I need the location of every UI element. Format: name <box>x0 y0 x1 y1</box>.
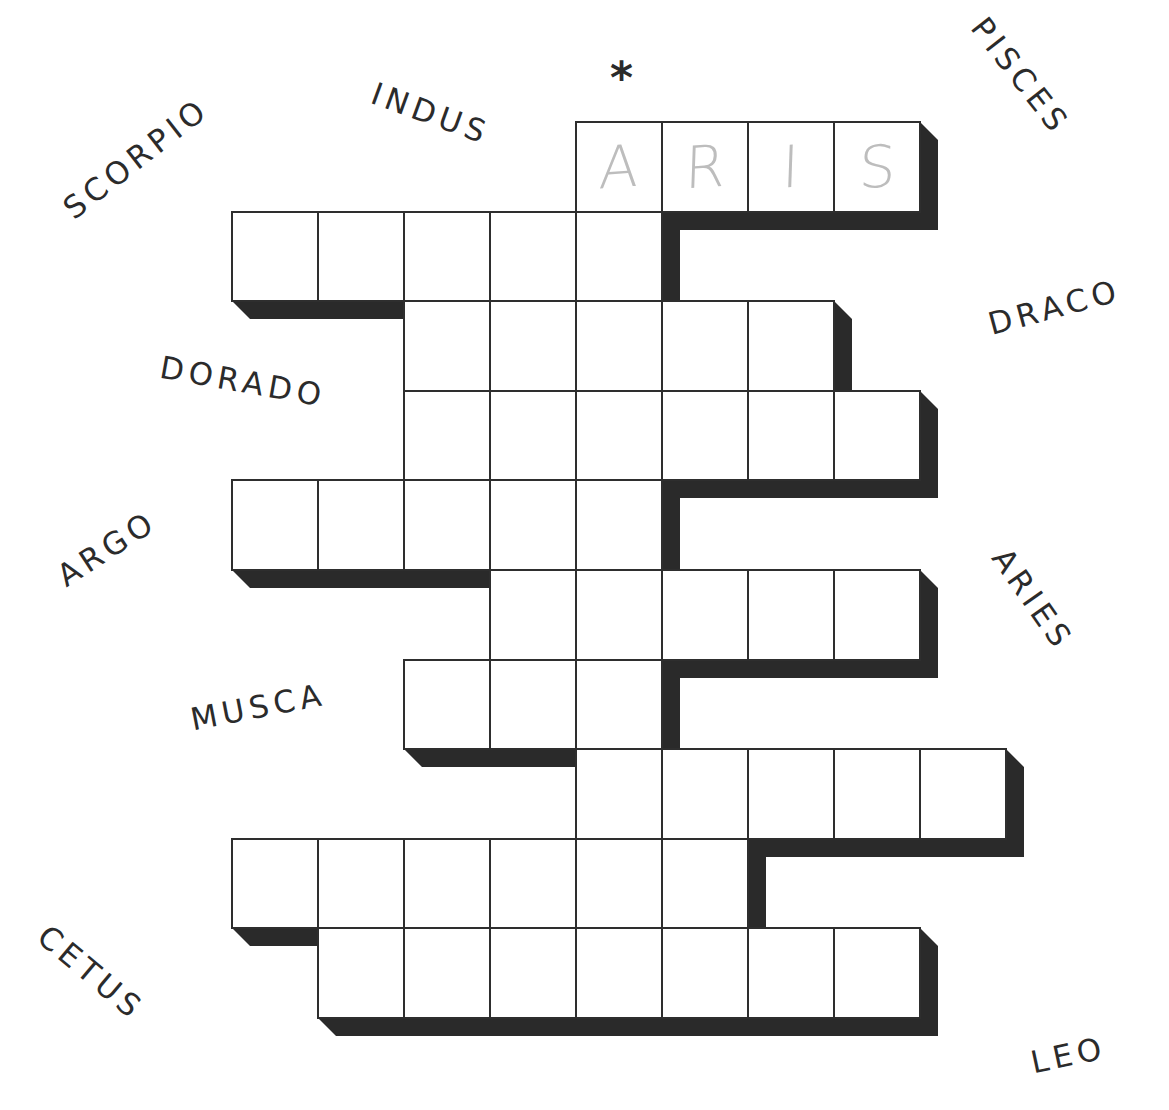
crossword-cell[interactable] <box>575 300 663 392</box>
crossword-cell[interactable] <box>661 927 749 1019</box>
crossword-cell[interactable] <box>489 390 577 481</box>
crossword-cell[interactable] <box>403 659 491 750</box>
crossword-cell[interactable] <box>403 927 491 1019</box>
crossword-cell[interactable] <box>747 927 835 1019</box>
constellation-label-indus: INDUS <box>367 78 494 149</box>
crossword-cell[interactable]: S <box>833 121 921 213</box>
crossword-cell[interactable] <box>403 211 491 302</box>
crossword-cell[interactable] <box>747 390 835 481</box>
crossword-cell[interactable] <box>231 211 319 302</box>
crossword-cell[interactable] <box>575 390 663 481</box>
crossword-cell[interactable] <box>317 211 405 302</box>
crossword-cell[interactable] <box>661 390 749 481</box>
crossword-cell[interactable] <box>403 479 491 571</box>
crossword-cell[interactable] <box>833 569 921 661</box>
constellation-label-scorpio: SCORPIO <box>58 93 215 225</box>
cell-letter: S <box>858 137 897 198</box>
crossword-cell[interactable] <box>747 748 835 840</box>
constellation-label-pisces: PISCES <box>966 12 1076 140</box>
crossword-cell[interactable] <box>575 659 663 750</box>
crossword-cell[interactable] <box>489 838 577 929</box>
crossword-cell[interactable] <box>661 569 749 661</box>
constellation-label-leo: LEO <box>1028 1032 1109 1078</box>
crossword-cell[interactable] <box>661 838 749 929</box>
asterisk-marker-icon: * <box>610 56 633 100</box>
crossword-cell[interactable] <box>833 748 921 840</box>
constellation-label-dorado: DORADO <box>158 352 329 412</box>
crossword-cell[interactable] <box>489 569 577 661</box>
constellation-label-cetus: CETUS <box>32 920 150 1026</box>
crossword-cell[interactable]: A <box>575 121 663 213</box>
crossword-cell[interactable] <box>575 211 663 302</box>
crossword-cell[interactable] <box>489 659 577 750</box>
crossword-cell[interactable] <box>231 479 319 571</box>
crossword-cell[interactable] <box>317 838 405 929</box>
crossword-cell[interactable] <box>403 390 491 481</box>
crossword-cell[interactable] <box>489 211 577 302</box>
crossword-cell[interactable] <box>575 479 663 571</box>
crossword-cell[interactable] <box>575 748 663 840</box>
crossword-puzzle: ARIS SCORPIOINDUSPISCESDRACODORADOARGOAR… <box>0 0 1169 1110</box>
crossword-cell[interactable] <box>747 569 835 661</box>
crossword-cell[interactable] <box>575 927 663 1019</box>
crossword-cell[interactable] <box>575 569 663 661</box>
crossword-cell[interactable] <box>833 927 921 1019</box>
crossword-cell[interactable] <box>489 927 577 1019</box>
constellation-label-aries: ARIES <box>987 543 1079 656</box>
cell-letter: I <box>781 137 800 196</box>
cell-letter: A <box>598 136 640 197</box>
crossword-cell[interactable] <box>575 838 663 929</box>
crossword-cell[interactable] <box>919 748 1007 840</box>
crossword-cell[interactable] <box>661 300 749 392</box>
crossword-cell[interactable]: I <box>747 121 835 213</box>
crossword-cell[interactable] <box>403 838 491 929</box>
constellation-label-musca: MUSCA <box>188 679 328 736</box>
crossword-cell[interactable] <box>403 300 491 392</box>
crossword-cell[interactable] <box>661 748 749 840</box>
crossword-cell[interactable] <box>833 390 921 481</box>
cell-letter: R <box>684 136 726 197</box>
crossword-cell[interactable]: R <box>661 121 749 213</box>
crossword-cell[interactable] <box>317 479 405 571</box>
crossword-cell[interactable] <box>489 300 577 392</box>
constellation-label-argo: ARGO <box>52 505 162 592</box>
crossword-cell[interactable] <box>489 479 577 571</box>
crossword-cell[interactable] <box>317 927 405 1019</box>
crossword-cell[interactable] <box>231 838 319 929</box>
crossword-cell[interactable] <box>747 300 835 392</box>
constellation-label-draco: DRACO <box>985 275 1124 340</box>
